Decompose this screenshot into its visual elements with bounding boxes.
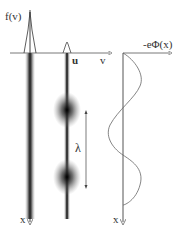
potential-curve	[108, 53, 141, 205]
bunch-lower	[53, 159, 81, 195]
x-label-left: x	[20, 213, 26, 225]
x-label-right: x	[113, 213, 119, 225]
lambda-label: λ	[75, 141, 81, 155]
u-label: u	[72, 54, 78, 66]
bunch-upper	[53, 92, 81, 128]
distribution-peak-stream	[63, 42, 71, 53]
two-stream-instability-diagram: f(v) v u -eΦ(x) λ x x	[0, 0, 176, 234]
f-of-v-label: f(v)	[5, 10, 22, 23]
v-axis-label: v	[100, 54, 106, 66]
potential-label: -eΦ(x)	[143, 38, 173, 51]
